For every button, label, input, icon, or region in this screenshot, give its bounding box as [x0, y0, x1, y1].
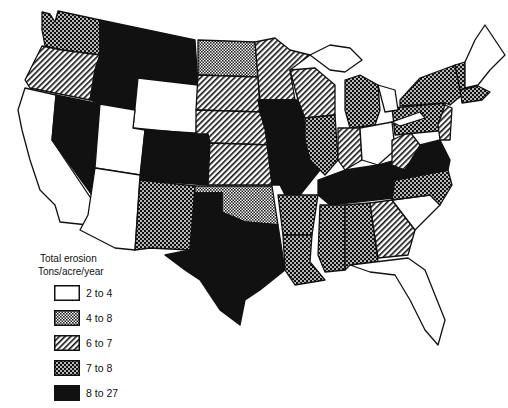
legend-label: 6 to 7: [86, 337, 112, 349]
swatch-black: [54, 385, 80, 401]
swatch-fine-dots: [54, 310, 80, 326]
swatch-white: [54, 285, 80, 301]
legend-title-line2: Tons/acre/year: [38, 265, 178, 278]
legend-label: 4 to 8: [86, 312, 112, 324]
swatch-checker: [54, 360, 80, 376]
state-ny: [400, 65, 462, 106]
state-ks: [208, 143, 272, 185]
state-in: [338, 128, 362, 170]
state-nd: [198, 40, 258, 77]
legend-label: 8 to 27: [86, 387, 118, 399]
legend-item-6-7: 6 to 7: [54, 334, 178, 352]
state-wy: [133, 78, 198, 134]
state-fl: [350, 258, 445, 345]
legend: Total erosion Tons/acre/year 2 to 4 4 to…: [38, 252, 178, 408]
legend-item-8-27: 8 to 27: [54, 384, 178, 402]
legend-label: 7 to 8: [86, 362, 112, 374]
state-ma-ct: [460, 86, 490, 103]
state-ia: [258, 100, 305, 128]
state-oh: [360, 122, 395, 165]
state-co: [140, 130, 210, 185]
state-nm: [135, 180, 195, 250]
legend-title: Total erosion Tons/acre/year: [38, 252, 178, 278]
swatch-diagonal: [54, 335, 80, 351]
state-mi: [345, 75, 380, 128]
state-ar: [278, 195, 318, 235]
state-ms: [318, 205, 345, 272]
legend-label: 2 to 4: [86, 287, 112, 299]
legend-item-2-4: 2 to 4: [54, 284, 178, 302]
state-sd: [196, 75, 260, 112]
state-nh-me: [465, 25, 505, 88]
legend-title-line1: Total erosion: [38, 252, 178, 265]
legend-item-7-8: 7 to 8: [54, 359, 178, 377]
legend-item-4-8: 4 to 8: [54, 309, 178, 327]
